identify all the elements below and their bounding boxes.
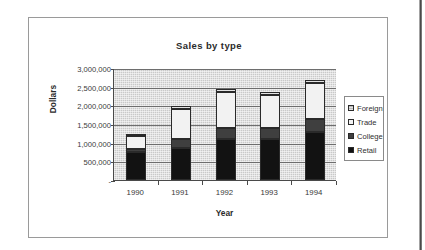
x-tick-mark — [291, 181, 292, 185]
y-tick-label: - — [49, 177, 111, 186]
bar-segment-trade[interactable] — [216, 92, 236, 128]
bar-segment-foreign[interactable] — [216, 89, 236, 92]
legend-item-college[interactable]: College — [348, 129, 380, 143]
chart-figure-frame: Sales by type Dollars -500,0001,000,0001… — [28, 17, 388, 238]
scanned-page: Sales by type Dollars -500,0001,000,0001… — [0, 0, 425, 250]
bar-segment-college[interactable] — [260, 128, 280, 139]
x-axis-tick-labels: 19901991199219931994 — [113, 188, 336, 200]
bar-segment-retail[interactable] — [171, 148, 191, 180]
bar-segment-foreign[interactable] — [305, 80, 325, 83]
bar-segment-foreign[interactable] — [126, 134, 146, 136]
plot-area — [113, 69, 336, 181]
bar-segment-retail[interactable] — [305, 132, 325, 180]
x-tick-label: 1993 — [249, 188, 289, 197]
legend-swatch-retail-icon — [348, 147, 354, 153]
x-axis-title: Year — [113, 208, 336, 218]
bar-segment-retail[interactable] — [260, 139, 280, 180]
legend-swatch-foreign-icon — [348, 105, 354, 111]
y-axis-tick-labels: -500,0001,000,0001,500,0002,000,0002,500… — [45, 69, 111, 181]
bar-segment-trade[interactable] — [126, 136, 146, 149]
x-tick-mark — [336, 181, 337, 185]
legend-item-label: Retail — [357, 146, 376, 155]
bar-segment-retail[interactable] — [216, 139, 236, 180]
bar-1990[interactable] — [126, 134, 146, 180]
bar-segment-foreign[interactable] — [171, 106, 191, 109]
y-tick-label: 1,000,000 — [49, 139, 111, 148]
legend-item-foreign[interactable]: Foreign — [348, 101, 380, 115]
bar-segment-foreign[interactable] — [260, 92, 280, 95]
y-tick-label: 500,000 — [49, 158, 111, 167]
legend-item-label: Trade — [357, 118, 377, 127]
chart-legend[interactable]: ForeignTradeCollegeRetail — [344, 96, 384, 161]
x-tick-label: 1991 — [160, 188, 200, 197]
y-tick-label: 2,000,000 — [49, 102, 111, 111]
bar-segment-college[interactable] — [126, 149, 146, 152]
chart-title: Sales by type — [29, 40, 389, 51]
x-tick-label: 1990 — [115, 188, 155, 197]
legend-item-trade[interactable]: Trade — [348, 115, 380, 129]
bar-1994[interactable] — [305, 80, 325, 180]
x-tick-mark — [202, 181, 203, 185]
y-tick-label: 3,000,000 — [49, 65, 111, 74]
legend-swatch-trade-icon — [348, 119, 354, 125]
gridline — [114, 69, 336, 70]
bar-segment-retail[interactable] — [126, 152, 146, 180]
bar-1992[interactable] — [216, 89, 236, 180]
bar-segment-college[interactable] — [216, 128, 236, 138]
y-tick-label: 2,500,000 — [49, 83, 111, 92]
legend-item-label: College — [357, 132, 383, 141]
legend-item-retail[interactable]: Retail — [348, 143, 380, 157]
x-tick-mark — [247, 181, 248, 185]
x-tick-label: 1994 — [294, 188, 334, 197]
x-tick-label: 1992 — [205, 188, 245, 197]
legend-swatch-college-icon — [348, 133, 354, 139]
bar-segment-trade[interactable] — [260, 95, 280, 129]
bar-segment-trade[interactable] — [171, 109, 191, 139]
x-tick-mark — [158, 181, 159, 185]
y-tick-label: 1,500,000 — [49, 121, 111, 130]
x-axis-tick-marks — [113, 181, 337, 186]
bar-segment-college[interactable] — [305, 119, 325, 132]
bar-1991[interactable] — [171, 106, 191, 180]
bar-segment-trade[interactable] — [305, 83, 325, 119]
page-edge-shadow — [419, 0, 422, 250]
bar-segment-college[interactable] — [171, 139, 191, 148]
legend-item-label: Foreign — [357, 104, 383, 113]
bar-1993[interactable] — [260, 92, 280, 180]
